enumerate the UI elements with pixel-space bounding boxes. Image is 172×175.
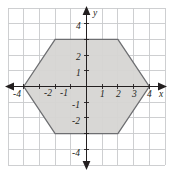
y-tick-label-neg2: -2 [72, 117, 80, 127]
x-tick-label-3: 3 [132, 90, 137, 100]
y-tick-label-2: 2 [76, 53, 81, 63]
y-axis-bottom-arrowhead [83, 161, 91, 170]
x-tick-label-neg4: -4 [13, 90, 21, 100]
x-tick-label-neg1: -1 [60, 89, 68, 99]
y-tick-label-4: 4 [76, 22, 81, 32]
x-tick-label-4: 4 [147, 90, 152, 100]
x-axis-label: x [159, 90, 163, 100]
y-tick-label-neg1: -1 [72, 101, 80, 111]
y-axis-label: y [93, 9, 97, 19]
coordinate-plane-figure: -4 -2 -1 1 2 3 4 4 2 1 -1 -2 -4 x y [0, 0, 172, 175]
y-tick-label-1: 1 [76, 69, 81, 79]
x-tick-label-2: 2 [116, 90, 121, 100]
y-tick-label-neg4: -4 [72, 149, 80, 159]
x-tick-label-neg2: -2 [44, 89, 52, 99]
coordinate-plane-svg [0, 0, 172, 175]
x-tick-label-1: 1 [100, 90, 105, 100]
